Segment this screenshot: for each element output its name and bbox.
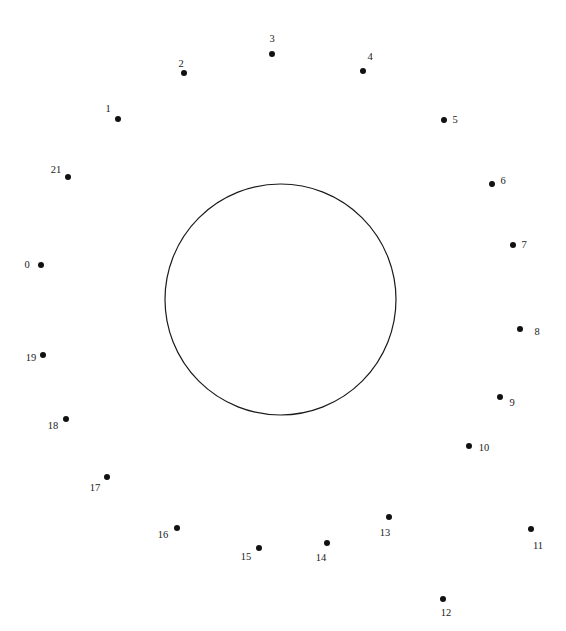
- puzzle-dot[interactable]: [115, 116, 121, 122]
- puzzle-dot[interactable]: [440, 596, 446, 602]
- puzzle-dot-label: 16: [158, 530, 169, 541]
- puzzle-dot-label: 15: [241, 552, 252, 563]
- puzzle-dot-label: 5: [452, 115, 457, 126]
- shape-layer: [0, 0, 566, 631]
- puzzle-dot-label: 9: [509, 398, 514, 409]
- puzzle-dot-label: 18: [48, 421, 59, 432]
- puzzle-dot[interactable]: [441, 117, 447, 123]
- puzzle-dot[interactable]: [489, 181, 495, 187]
- puzzle-dot[interactable]: [497, 394, 503, 400]
- puzzle-dot-label: 17: [90, 483, 101, 494]
- puzzle-dot[interactable]: [181, 70, 187, 76]
- connect-the-dots-figure: 01234567891011121314151617181921: [0, 0, 566, 631]
- puzzle-dot-label: 12: [441, 608, 452, 619]
- puzzle-dot[interactable]: [174, 525, 180, 531]
- puzzle-dot-label: 13: [380, 528, 391, 539]
- puzzle-dot[interactable]: [40, 352, 46, 358]
- puzzle-dot-label: 1: [105, 104, 110, 115]
- puzzle-dot[interactable]: [528, 526, 534, 532]
- puzzle-dot[interactable]: [360, 68, 366, 74]
- puzzle-dot[interactable]: [63, 416, 69, 422]
- puzzle-dot-label: 10: [479, 443, 490, 454]
- puzzle-dot-label: 2: [178, 59, 183, 70]
- puzzle-dot[interactable]: [324, 540, 330, 546]
- puzzle-dot-label: 19: [26, 353, 37, 364]
- puzzle-dot-label: 8: [534, 327, 539, 338]
- puzzle-dot-label: 0: [24, 260, 29, 271]
- puzzle-dot[interactable]: [256, 545, 262, 551]
- puzzle-dot[interactable]: [65, 174, 71, 180]
- puzzle-dot-label: 14: [316, 553, 327, 564]
- puzzle-dot-label: 11: [533, 541, 543, 552]
- puzzle-dot[interactable]: [104, 474, 110, 480]
- puzzle-dot-label: 6: [500, 176, 505, 187]
- puzzle-dot[interactable]: [510, 242, 516, 248]
- puzzle-dot[interactable]: [38, 262, 44, 268]
- puzzle-dot[interactable]: [466, 443, 472, 449]
- puzzle-dot[interactable]: [517, 326, 523, 332]
- puzzle-dot-label: 21: [51, 165, 62, 176]
- puzzle-dot[interactable]: [269, 51, 275, 57]
- circle-outline-shape: [165, 184, 396, 415]
- puzzle-dot[interactable]: [386, 514, 392, 520]
- puzzle-dot-label: 4: [367, 52, 372, 63]
- puzzle-dot-label: 7: [521, 240, 526, 251]
- puzzle-dot-label: 3: [269, 34, 274, 45]
